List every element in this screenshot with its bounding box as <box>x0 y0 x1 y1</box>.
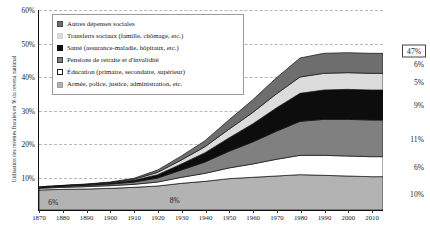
x-axis-tick-label: 1950 <box>223 214 237 221</box>
series-end-labels: 10%6%11%9%5%6%47% <box>383 10 428 211</box>
series-end-label: 6% <box>414 59 424 68</box>
x-axis-tick-label: 1870 <box>32 214 46 221</box>
x-axis-tick-mark <box>134 210 135 213</box>
y-axis-tick-label: 10% <box>21 173 35 182</box>
x-axis-tick-mark <box>63 210 64 213</box>
x-axis-tick-mark <box>372 210 373 213</box>
total-label: 47% <box>402 44 426 57</box>
legend-swatch-icon <box>57 33 63 39</box>
series-end-label: 5% <box>414 78 424 87</box>
legend-swatch-icon <box>57 82 63 88</box>
x-axis-tick-label: 1960 <box>246 214 260 221</box>
legend-swatch-icon <box>57 57 63 63</box>
series-end-label: 6% <box>414 163 424 172</box>
x-axis-tick-label: 1920 <box>151 214 165 221</box>
chart-container: Utilisation des recettes fiscales en % d… <box>0 0 430 242</box>
x-axis-tick-mark <box>229 210 230 213</box>
legend-item-label: Pensions de retraite et d'invalidité <box>67 57 159 64</box>
legend-item-label: Armée, police, justice, administration, … <box>67 81 182 88</box>
chart-annotation: 6% <box>48 198 58 207</box>
chart-legend: Autres dépenses socialesTransferts socia… <box>52 14 244 95</box>
x-axis-tick-mark <box>301 210 302 213</box>
x-axis-tick-label: 1910 <box>127 214 141 221</box>
x-axis-tick-label: 1880 <box>56 214 70 221</box>
y-axis-tick-label: 40% <box>21 73 35 82</box>
legend-item-label: Éducation (primaire, secondaire, supérie… <box>67 69 185 76</box>
x-axis-tick-mark <box>110 210 111 213</box>
series-end-label: 10% <box>410 190 424 199</box>
x-axis-tick-mark <box>325 210 326 213</box>
x-axis-tick-mark <box>158 210 159 213</box>
legend-item-label: Transferts sociaux (famille, chômage, et… <box>67 33 183 40</box>
legend-item[interactable]: Armée, police, justice, administration, … <box>57 78 238 90</box>
chart-annotation: 8% <box>170 195 180 204</box>
legend-item[interactable]: Éducation (primaire, secondaire, supérie… <box>57 66 238 78</box>
x-axis-tick-mark <box>253 210 254 213</box>
x-axis-tick-label: 1990 <box>318 214 332 221</box>
legend-item[interactable]: Transferts sociaux (famille, chômage, et… <box>57 30 238 42</box>
x-axis-tick-label: 2000 <box>342 214 356 221</box>
x-axis-tick-label: 1970 <box>270 214 284 221</box>
y-axis-tick-label: 30% <box>21 106 35 115</box>
legend-item[interactable]: Autres dépenses sociales <box>57 18 238 30</box>
x-axis-tick-label: 1980 <box>294 214 308 221</box>
legend-swatch-icon <box>57 21 63 27</box>
x-axis-tick-label: 1930 <box>175 214 189 221</box>
x-axis-tick-mark <box>277 210 278 213</box>
x-axis-tick-mark <box>206 210 207 213</box>
legend-swatch-icon <box>57 45 63 51</box>
series-end-label: 11% <box>410 134 424 143</box>
x-axis-tick-mark <box>87 210 88 213</box>
x-axis-tick-mark <box>348 210 349 213</box>
series-end-label: 9% <box>414 101 424 110</box>
y-axis-tick-label: 50% <box>21 39 35 48</box>
y-axis-title: Utilisation des recettes fiscales en % d… <box>11 19 17 219</box>
y-axis-tick-label: 60% <box>21 6 35 15</box>
legend-item-label: Autres dépenses sociales <box>67 21 135 28</box>
legend-item-label: Santé (assurance-maladie, hôpitaux, etc.… <box>67 45 179 52</box>
legend-item[interactable]: Pensions de retraite et d'invalidité <box>57 54 238 66</box>
y-axis-tick-label: 20% <box>21 140 35 149</box>
legend-item[interactable]: Santé (assurance-maladie, hôpitaux, etc.… <box>57 42 238 54</box>
x-axis-tick-label: 2010 <box>365 214 379 221</box>
x-axis-tick-mark <box>182 210 183 213</box>
x-axis-tick-label: 1940 <box>199 214 213 221</box>
x-axis-tick-label: 1900 <box>104 214 118 221</box>
legend-swatch-icon <box>57 69 63 75</box>
x-axis-tick-mark <box>39 210 40 213</box>
x-axis-tick-label: 1890 <box>80 214 94 221</box>
chart-annotation: 1% <box>45 184 51 189</box>
